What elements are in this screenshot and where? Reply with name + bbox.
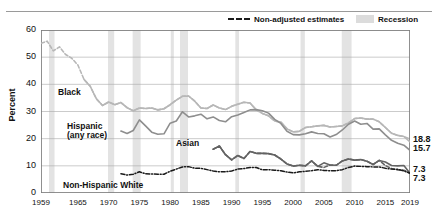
legend-label-recession: Recession xyxy=(378,15,418,24)
legend-item-recession[interactable]: Recession xyxy=(356,13,418,25)
series-line xyxy=(213,146,410,173)
x-tick-label: 2000 xyxy=(276,198,310,207)
series-label-asian: Asian xyxy=(176,139,199,148)
x-tick-label: 1965 xyxy=(61,198,95,207)
series-line xyxy=(121,110,410,151)
y-tick-label: 50 xyxy=(10,51,36,61)
y-tick-label: 30 xyxy=(10,106,36,116)
chart-figure: Non-adjusted estimates Recession Percent… xyxy=(0,0,438,222)
series-line xyxy=(213,146,410,173)
figure-title xyxy=(6,0,426,10)
y-tick-label: 10 xyxy=(10,160,36,170)
y-tick-label: 40 xyxy=(10,78,36,88)
x-tick-label: 2010 xyxy=(338,198,372,207)
x-tick-label: 1970 xyxy=(92,198,126,207)
series-line xyxy=(121,166,410,175)
y-tick-label: 20 xyxy=(10,133,36,143)
x-tick-label: 1985 xyxy=(184,198,218,207)
gray-band-icon xyxy=(356,15,374,23)
plot-svg xyxy=(41,30,410,193)
x-tick-label: 1959 xyxy=(24,198,58,207)
series-label-hispanic: Hispanic (any race) xyxy=(67,122,107,140)
title-divider xyxy=(6,11,432,12)
x-tick-label: 1975 xyxy=(122,198,156,207)
dashed-line-icon xyxy=(228,18,250,20)
chart-legend: Non-adjusted estimates Recession xyxy=(228,13,434,25)
end-value-hispanic: 15.7 xyxy=(413,143,438,153)
end-value-non-hispanic-white: 7.3 xyxy=(413,173,438,183)
x-tick-label: 1990 xyxy=(215,198,249,207)
x-tick-label: 1995 xyxy=(245,198,279,207)
plot-area xyxy=(41,30,410,193)
x-tick-label: 1980 xyxy=(153,198,187,207)
series-label-non-hispanic-white: Non-Hispanic White xyxy=(63,181,143,190)
y-tick-label: 0 xyxy=(10,187,36,197)
series-label-hispanic-line2: (any race) xyxy=(67,131,107,140)
legend-label-non-adjusted: Non-adjusted estimates xyxy=(254,15,344,24)
y-tick-label: 60 xyxy=(10,24,36,34)
series-label-black: Black xyxy=(58,88,81,97)
legend-item-non-adjusted[interactable]: Non-adjusted estimates xyxy=(228,13,344,25)
x-tick-label: 2019 xyxy=(393,198,427,207)
x-tick-label: 2005 xyxy=(307,198,341,207)
